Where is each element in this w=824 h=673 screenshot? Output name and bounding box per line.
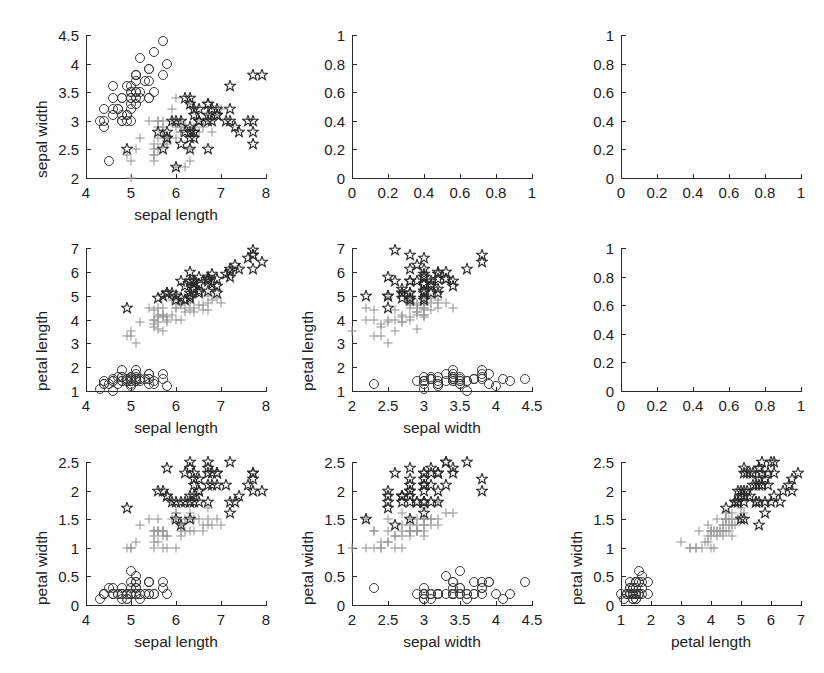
marker-star	[762, 479, 774, 491]
marker-star	[735, 513, 747, 525]
marker-star	[732, 485, 744, 497]
marker-star	[786, 485, 798, 497]
marker-star	[753, 473, 765, 485]
marker-star	[750, 479, 762, 491]
marker-star	[759, 473, 771, 485]
marker-star	[738, 513, 750, 525]
marker-star	[783, 479, 795, 491]
marker-star	[756, 479, 768, 491]
marker-star	[777, 485, 789, 497]
marker-star	[768, 467, 780, 479]
figure-canvas: 4567822.533.544.5sepal lengthsepal width…	[0, 0, 824, 673]
marker-star	[738, 490, 750, 502]
marker-star	[738, 496, 750, 508]
marker-star	[759, 496, 771, 508]
marker-star	[753, 462, 765, 474]
marker-star	[738, 485, 750, 497]
marker-star	[756, 456, 768, 468]
marker-star	[753, 479, 765, 491]
marker-star	[729, 496, 741, 508]
marker-star	[738, 462, 750, 474]
marker-star	[786, 473, 798, 485]
marker-star	[732, 496, 744, 508]
marker-star	[741, 485, 753, 497]
marker-star	[750, 496, 762, 508]
marker-star	[753, 496, 765, 508]
marker-star	[732, 496, 744, 508]
marker-star	[738, 467, 750, 479]
series-p22-virginica	[0, 0, 824, 673]
marker-star	[753, 519, 765, 531]
marker-star	[735, 490, 747, 502]
marker-star	[765, 456, 777, 468]
marker-star	[768, 456, 780, 468]
marker-star	[729, 496, 741, 508]
marker-star	[720, 502, 732, 514]
marker-star	[747, 467, 759, 479]
marker-star	[753, 462, 765, 474]
marker-star	[762, 467, 774, 479]
marker-star	[735, 485, 747, 497]
marker-star	[759, 507, 771, 519]
marker-star	[744, 490, 756, 502]
marker-star	[768, 490, 780, 502]
marker-star	[756, 467, 768, 479]
marker-star	[765, 496, 777, 508]
marker-star	[792, 467, 804, 479]
marker-star	[774, 496, 786, 508]
marker-star	[747, 479, 759, 491]
marker-star	[750, 496, 762, 508]
marker-star	[738, 490, 750, 502]
marker-star	[741, 467, 753, 479]
marker-star	[744, 467, 756, 479]
plot-panel-p22: 123456700.511.522.5petal lengthpetal wid…	[0, 0, 824, 673]
